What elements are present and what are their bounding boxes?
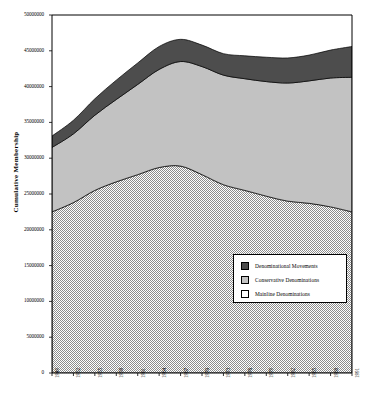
x-tick-label: 1973 [225,368,231,378]
x-tick-label: 1976 [247,368,253,378]
x-tick-label: 1991 [354,368,360,378]
x-tick-label: 1958 [118,368,124,378]
y-tick-label: 40000000 [0,84,44,89]
y-tick-label: 0 [0,370,44,375]
x-tick-label: 1985 [311,368,317,378]
legend-item-mainline-denominations: Mainline Denominations [241,287,346,301]
legend-label: Denominational Movements [255,263,318,269]
y-tick-label: 25000000 [0,191,44,196]
x-tick-label: 1967 [183,368,189,378]
plot-area [0,0,367,409]
chart-legend: Denominational Movements Conservative De… [233,254,347,303]
x-tick-label: 1964 [161,368,167,378]
x-tick-label: 1955 [97,368,103,378]
x-tick-label: 1949 [54,368,60,378]
y-tick-label: 45000000 [0,48,44,53]
y-tick-label: 30000000 [0,155,44,160]
y-tick-label: 15000000 [0,263,44,268]
legend-item-denominational-movements: Denominational Movements [241,259,346,273]
y-tick-label: 5000000 [0,334,44,339]
y-tick-label: 10000000 [0,298,44,303]
y-tick-label: 20000000 [0,227,44,232]
legend-swatch-icon [241,276,249,284]
x-tick-label: 1961 [140,368,146,378]
legend-label: Mainline Denominations [255,291,310,297]
chart-figure: Cumulative Membership 050000001000000015… [0,0,367,409]
x-tick-label: 1970 [204,368,210,378]
legend-item-conservative-denominations: Conservative Denominations [241,273,346,287]
legend-label: Conservative Denominations [255,277,319,283]
chart-svg [0,0,367,409]
x-tick-label: 1979 [268,368,274,378]
x-tick-label: 1982 [290,368,296,378]
y-tick-label: 35000000 [0,119,44,124]
y-tick-label: 50000000 [0,12,44,17]
legend-swatch-icon [241,262,249,270]
x-tick-label: 1952 [75,368,81,378]
legend-swatch-icon [241,290,249,298]
x-tick-label: 1988 [333,368,339,378]
